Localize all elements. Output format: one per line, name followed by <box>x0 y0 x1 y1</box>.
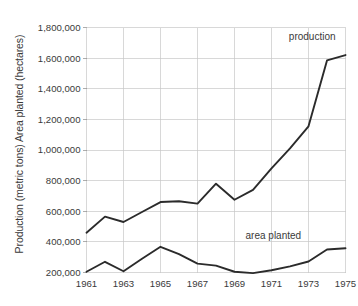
horizontal-gridlines <box>87 28 346 273</box>
x-tick-label: 1967 <box>187 278 208 289</box>
x-tick-label: 1973 <box>298 278 319 289</box>
x-axis-tick-labels: 19611963196519671969197119731975 <box>76 278 356 289</box>
annotation-production: production <box>289 31 336 42</box>
y-tick-label: 400,000 <box>46 236 81 247</box>
x-tick-label: 1969 <box>224 278 245 289</box>
y-axis-tick-labels: 200,000400,000600,000800,0001,000,0001,2… <box>38 22 81 278</box>
x-tick-label: 1975 <box>335 278 356 289</box>
annotation-area-planted: area planted <box>246 230 302 241</box>
x-tick-label: 1963 <box>113 278 134 289</box>
series-line-production <box>87 55 346 233</box>
x-tick-label: 1965 <box>150 278 171 289</box>
series-annotations: productionarea planted <box>246 31 336 241</box>
y-tick-label: 1,200,000 <box>38 114 81 125</box>
y-tick-label: 600,000 <box>46 206 81 217</box>
x-tick-label: 1961 <box>76 278 97 289</box>
plot-area: 200,000400,000600,000800,0001,000,0001,2… <box>0 0 358 306</box>
y-tick-label: 200,000 <box>46 267 81 278</box>
series-line-area-planted <box>87 247 346 273</box>
data-series-lines <box>87 55 346 273</box>
axis-tickmarks <box>83 28 87 273</box>
y-tick-label: 800,000 <box>46 175 81 186</box>
y-tick-label: 1,600,000 <box>38 53 81 64</box>
x-tick-label: 1971 <box>261 278 282 289</box>
y-tick-label: 1,000,000 <box>38 144 81 155</box>
line-chart: Production (metric tons) Area planted (h… <box>0 0 358 306</box>
y-tick-label: 1,800,000 <box>38 22 81 33</box>
y-tick-label: 1,400,000 <box>38 83 81 94</box>
